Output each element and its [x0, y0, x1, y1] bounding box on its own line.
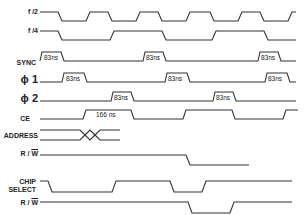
- label-ce: CE: [14, 115, 30, 123]
- phi2-pulse-2-width: 83ns: [216, 94, 230, 101]
- waveform-rw2: [40, 202, 292, 213]
- label-phi2: ϕ 2: [14, 94, 38, 102]
- label-rw2-w: W: [31, 199, 38, 206]
- waveform-rw1: [40, 155, 249, 165]
- label-phi1: ϕ 1: [14, 75, 38, 83]
- phi2-pulse-1-width: 83ns: [114, 94, 128, 101]
- label-rw1-w: W: [31, 150, 38, 157]
- sync-pulse-1-width: 83ns: [44, 54, 58, 61]
- waveform-address-top: [40, 130, 120, 140]
- label-select: SELECT: [8, 186, 36, 193]
- waveform-f2: [40, 12, 296, 21]
- label-address: ADDRESS: [2, 132, 38, 140]
- sync-pulse-2-width: 83ns: [146, 54, 160, 61]
- waveform-phi2: [40, 92, 296, 101]
- sync-pulse-3-width: 83ns: [261, 54, 275, 61]
- label-rw2-r: R /: [20, 199, 29, 206]
- label-rw2: R / W: [10, 199, 38, 207]
- phi1-pulse-1-width: 83ns: [66, 75, 80, 82]
- ce-pulse-width: 166 ns: [96, 111, 116, 118]
- waveform-sync: [40, 52, 296, 61]
- waveform-ce: [40, 110, 298, 119]
- label-chip: CHIP: [19, 178, 36, 185]
- waveform-f4: [40, 31, 296, 40]
- label-f4: f /4: [14, 27, 38, 35]
- waveforms: [0, 0, 304, 215]
- waveform-address-bottom: [40, 130, 120, 140]
- label-sync: SYNC: [6, 59, 36, 67]
- label-rw1-r: R /: [20, 150, 29, 157]
- waveform-chip-select: [40, 181, 292, 192]
- label-chip-select: CHIPSELECT: [6, 178, 36, 194]
- phi1-pulse-2-width: 83ns: [168, 75, 182, 82]
- phi1-pulse-3-width: 83ns: [268, 75, 282, 82]
- label-f2: f /2: [14, 8, 38, 16]
- label-rw1: R / W: [10, 150, 38, 158]
